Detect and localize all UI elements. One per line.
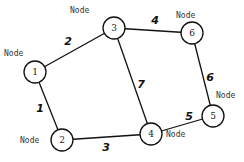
node-3: 3: [103, 17, 125, 39]
node-number: 5: [210, 111, 216, 121]
node-number: 2: [59, 135, 65, 145]
nodes-layer: 123456: [24, 17, 224, 151]
node-caption: Node: [176, 11, 195, 20]
edge-weight: 5: [185, 110, 193, 123]
node-number: 4: [148, 129, 154, 139]
edge-weight: 3: [102, 141, 110, 154]
node-number: 1: [32, 67, 38, 77]
edge-weight: 6: [206, 71, 214, 84]
edge-1-3: [35, 28, 114, 72]
edge-weight: 4: [150, 14, 159, 27]
node-number: 3: [111, 23, 117, 33]
node-1: 1: [24, 61, 46, 83]
edge-3-6: [114, 28, 192, 33]
node-6: 6: [181, 22, 203, 44]
edges-layer: [35, 28, 213, 140]
node-caption: Node: [4, 49, 23, 58]
node-caption: Node: [216, 91, 235, 100]
node-caption: Node: [70, 6, 89, 15]
node-2: 2: [51, 129, 73, 151]
edge-weight: 2: [64, 35, 72, 48]
node-4: 4: [140, 123, 162, 145]
node-caption: Node: [20, 136, 39, 145]
node-5: 5: [202, 105, 224, 127]
edge-weight: 1: [36, 102, 44, 115]
node-number: 6: [189, 28, 195, 38]
network-graph: 1234567 123456 NodeNodeNodeNodeNodeNode: [0, 0, 244, 162]
node-caption: Node: [166, 130, 185, 139]
edge-3-4: [114, 28, 151, 134]
edge-weight: 7: [137, 78, 145, 91]
edge-2-4: [62, 134, 151, 140]
